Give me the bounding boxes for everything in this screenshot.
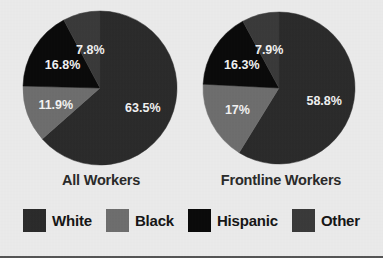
- legend-swatch-hispanic: [188, 209, 211, 232]
- pie-slice-value-hispanic: 16.3%: [224, 58, 259, 72]
- pie-slice-value-other: 7.9%: [255, 43, 284, 57]
- chart-legend: WhiteBlackHispanicOther: [0, 198, 383, 242]
- pie-caption-all-workers: All Workers: [18, 172, 184, 188]
- pie-svg-all-workers: 63.5%11.9%16.8%7.8%: [18, 10, 184, 170]
- pie-svg-frontline-workers: 58.8%17%16.3%7.9%: [197, 10, 365, 170]
- pie-slices-frontline-workers: [203, 12, 355, 164]
- pie-slice-value-white: 63.5%: [125, 101, 160, 115]
- pie-chart-frontline-workers: 58.8%17%16.3%7.9% Frontline Workers: [197, 10, 365, 198]
- legend-item-white[interactable]: White: [23, 209, 92, 232]
- legend-swatch-other: [292, 209, 315, 232]
- legend-swatch-black: [106, 209, 129, 232]
- legend-item-black[interactable]: Black: [106, 209, 174, 232]
- pie-slice-value-black: 17%: [225, 103, 250, 117]
- pie-caption-frontline-workers: Frontline Workers: [197, 172, 365, 188]
- legend-label-hispanic: Hispanic: [217, 212, 278, 229]
- legend-swatch-white: [23, 209, 46, 232]
- legend-label-other: Other: [321, 212, 360, 229]
- pie-slices-all-workers: [23, 11, 177, 165]
- pie-chart-all-workers: 63.5%11.9%16.8%7.8% All Workers: [18, 10, 184, 198]
- legend-item-hispanic[interactable]: Hispanic: [188, 209, 278, 232]
- pie-slice-value-hispanic: 16.8%: [45, 58, 80, 72]
- pie-slice-value-black: 11.9%: [38, 98, 73, 112]
- pie-slice-value-white: 58.8%: [306, 94, 341, 108]
- pie-chart-figure: 63.5%11.9%16.8%7.8% All Workers 58.8%17%…: [0, 0, 383, 258]
- legend-item-other[interactable]: Other: [292, 209, 360, 232]
- legend-label-white: White: [52, 212, 92, 229]
- pie-slice-value-other: 7.8%: [76, 43, 105, 57]
- legend-label-black: Black: [135, 212, 174, 229]
